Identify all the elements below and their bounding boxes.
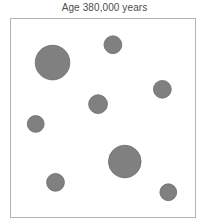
figure-panel: Age 380,000 years	[0, 0, 209, 220]
bubble-marker	[104, 36, 122, 54]
bubble-scatter-layer	[11, 19, 195, 217]
bubble-marker	[89, 95, 108, 114]
plot-frame	[10, 18, 196, 218]
bubble-marker	[160, 184, 177, 201]
bubble-marker	[27, 116, 44, 133]
bubble-marker	[35, 45, 70, 80]
bubble-marker	[108, 145, 141, 178]
page-title: Age 380,000 years	[0, 1, 209, 14]
bubble-marker	[47, 173, 65, 191]
bubble-marker	[153, 80, 171, 98]
